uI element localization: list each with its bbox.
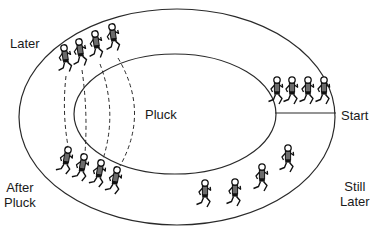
runner-group-after-pluck [55,145,123,194]
label-after-pluck: After Pluck [4,180,36,210]
label-pluck: Pluck [145,107,177,122]
runner-group-still-later [197,145,294,207]
diagram-canvas [0,0,379,234]
runner-figure [86,30,104,59]
label-still-later: Still Later [340,179,370,209]
runner-figure [316,77,330,104]
runner-figure [197,180,211,207]
runner-figure [254,164,268,191]
runner-group-start [269,77,330,104]
label-later: Later [10,36,40,51]
dashed-trajectory [118,58,135,166]
runner-figure [70,38,88,67]
runner-figure [280,145,294,172]
label-start: Start [341,108,368,123]
track-diagram: Later Pluck Start After Pluck Still Late… [0,0,379,234]
runner-figure [88,158,107,187]
runner-figure [71,152,90,181]
runner-figure [55,44,73,73]
runner-groups [55,23,329,207]
runner-figure [269,77,283,104]
runner-group-later [55,23,121,73]
runner-figure [300,77,314,104]
outer-track-boundary [19,9,335,225]
runner-figure [227,179,241,206]
dashed-trajectory [100,64,110,159]
dashed-trajectory [64,76,68,146]
runner-figure [284,77,298,104]
runner-figure [55,145,74,174]
runner-figure [103,23,121,52]
runner-figure [104,165,123,194]
